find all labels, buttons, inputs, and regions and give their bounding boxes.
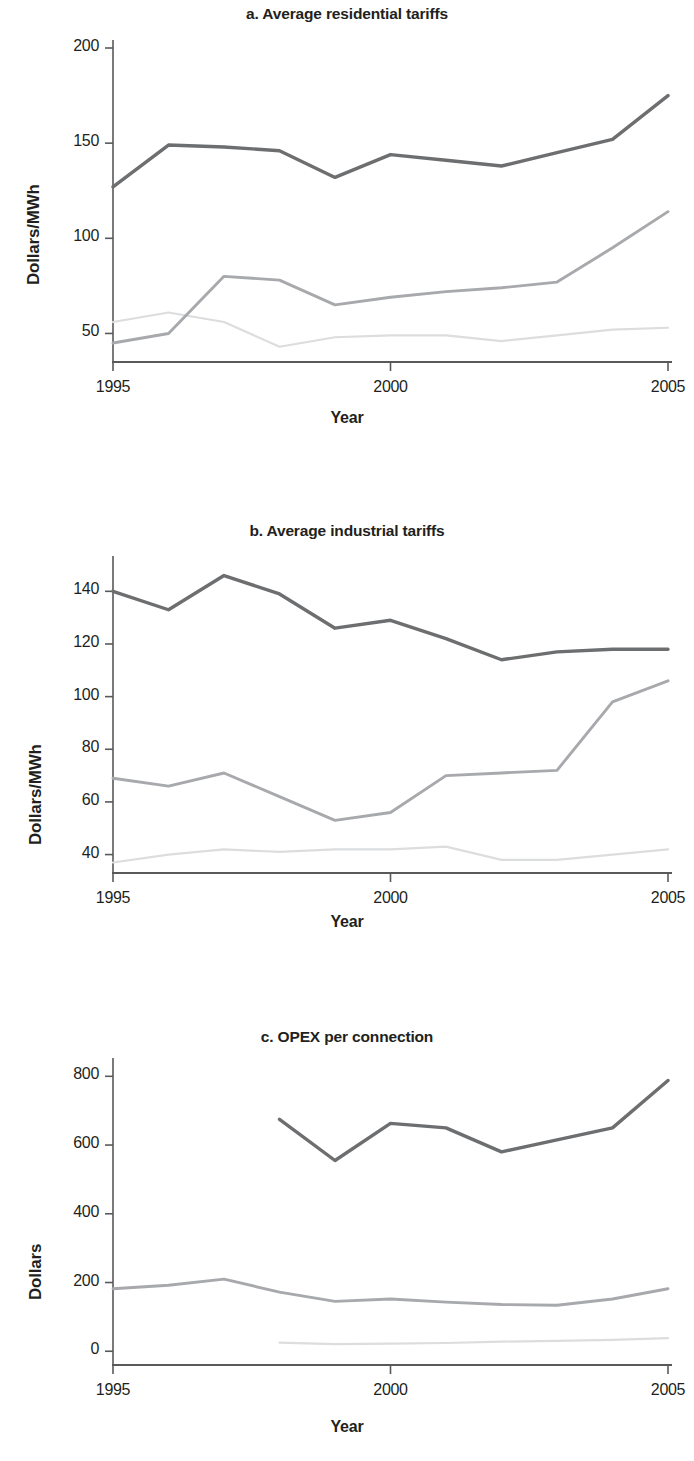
y-tick-label: 80 (82, 738, 99, 756)
y-tick-label: 100 (73, 686, 99, 704)
panel-a-x-axis-label: Year (0, 409, 694, 427)
y-tick-label: 140 (73, 580, 99, 598)
y-tick-label: 50 (82, 322, 99, 340)
y-tick-label: 200 (73, 37, 99, 55)
series-dark-line (113, 96, 668, 187)
x-tick-label: 2005 (628, 378, 694, 396)
series-dark-line (280, 1080, 669, 1160)
series-medium-line (113, 212, 668, 343)
x-tick-label: 1995 (73, 378, 153, 396)
y-tick-label: 800 (73, 1065, 99, 1083)
x-tick-label: 1995 (73, 889, 153, 907)
y-tick-label: 120 (73, 633, 99, 651)
series-medium-line (113, 681, 668, 821)
chart-panel-c: c. OPEX per connection Dollars Year 0200… (0, 990, 694, 1461)
x-tick-label: 2000 (351, 889, 431, 907)
y-tick-label: 60 (82, 791, 99, 809)
y-tick-label: 600 (73, 1134, 99, 1152)
panel-c-x-axis-label: Year (0, 1418, 694, 1436)
y-tick-label: 100 (73, 227, 99, 245)
x-tick-label: 2000 (351, 1381, 431, 1399)
series-light-line (113, 847, 668, 863)
panel-a-plot-area (0, 0, 694, 400)
y-tick-label: 0 (90, 1340, 99, 1358)
x-tick-label: 2000 (351, 378, 431, 396)
series-light-line (113, 313, 668, 347)
series-light-line (280, 1338, 669, 1344)
y-tick-label: 150 (73, 132, 99, 150)
chart-panel-b: b. Average industrial tariffs Dollars/MW… (0, 490, 694, 990)
y-tick-label: 400 (73, 1203, 99, 1221)
x-tick-label: 1995 (73, 1381, 153, 1399)
panel-b-x-axis-label: Year (0, 913, 694, 931)
series-dark-line (113, 576, 668, 660)
chart-panel-a: a. Average residential tariffs Dollars/M… (0, 0, 694, 490)
y-tick-label: 40 (82, 844, 99, 862)
y-tick-label: 200 (73, 1272, 99, 1290)
panel-c-plot-area (0, 990, 694, 1420)
series-medium-line (113, 1279, 668, 1305)
x-tick-label: 2005 (628, 1381, 694, 1399)
panel-b-plot-area (0, 490, 694, 910)
x-tick-label: 2005 (628, 889, 694, 907)
